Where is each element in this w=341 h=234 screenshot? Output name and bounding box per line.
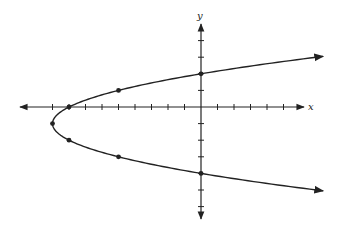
- axes: [20, 24, 304, 219]
- parabola-path: [53, 56, 324, 190]
- parabola-curve: [53, 56, 324, 190]
- data-points: [50, 71, 203, 175]
- data-point: [199, 71, 204, 76]
- x-axis-label: x: [308, 101, 314, 112]
- data-point: [67, 138, 72, 143]
- data-point: [116, 154, 121, 159]
- y-axis-label: y: [196, 10, 203, 21]
- data-point: [50, 121, 55, 126]
- parabola-chart: x y: [0, 0, 341, 234]
- data-point: [199, 171, 204, 176]
- data-point: [67, 105, 72, 110]
- data-point: [116, 88, 121, 93]
- axis-ticks: [53, 41, 284, 207]
